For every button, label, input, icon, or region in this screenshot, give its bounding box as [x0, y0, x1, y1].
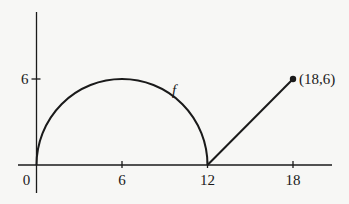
- x-tick-label: 0: [23, 172, 31, 188]
- endpoint-dot: [290, 76, 296, 82]
- axes: [18, 12, 332, 193]
- x-tick-label: 12: [200, 172, 215, 188]
- plot-area: f(18,6): [37, 71, 336, 165]
- chart: 0612186 f(18,6): [0, 0, 349, 204]
- curve-label-f: f: [172, 82, 178, 98]
- semicircle-segment: [37, 79, 208, 165]
- line-segment: [208, 79, 294, 165]
- x-tick-label: 6: [118, 172, 126, 188]
- x-tick-label: 18: [286, 172, 301, 188]
- y-tick-label: 6: [21, 71, 29, 87]
- point-annotation: (18,6): [299, 71, 335, 88]
